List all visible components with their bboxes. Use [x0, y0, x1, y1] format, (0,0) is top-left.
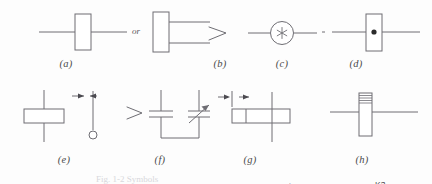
symbol-art-c: [244, 6, 320, 58]
figure-label-g: (g): [200, 154, 300, 165]
symbol-art-d: [322, 6, 426, 58]
figure-label-e: (e): [16, 154, 112, 165]
symbol-cell-h: K3 3B 5† (h): [322, 90, 426, 166]
figure-caption: Fig. 1-2 Symbols: [96, 174, 158, 184]
symbol-cell-e: (e): [12, 90, 108, 166]
symbol-cell-d: (d): [322, 6, 426, 78]
figure-label-a: (a): [0, 58, 154, 69]
symbol-art-h: [322, 90, 426, 154]
or-connector-word: or: [132, 26, 140, 36]
symbol-cell-g: + + (g): [216, 90, 316, 166]
symbol-art-a: [14, 6, 190, 58]
symbol-art-e: [12, 90, 108, 154]
figure-label-h: (h): [310, 154, 414, 165]
figure-label-d: (d): [304, 58, 408, 69]
caption-strip: Fig. 1-2 Symbols: [0, 174, 432, 184]
symbol-cell-f: (f): [120, 90, 212, 166]
symbol-art-g: [216, 90, 316, 154]
figure-label-f: (f): [114, 154, 206, 165]
figure-label-b: (b): [196, 58, 244, 69]
symbol-cell-b: (b): [196, 6, 244, 78]
symbol-cell-a: or (a): [14, 6, 190, 78]
symbol-art-f: [120, 90, 212, 154]
center-dot-d: [371, 29, 376, 34]
figure-sheet: or (a) (b) (c): [0, 0, 432, 184]
symbol-art-b: [196, 6, 244, 58]
